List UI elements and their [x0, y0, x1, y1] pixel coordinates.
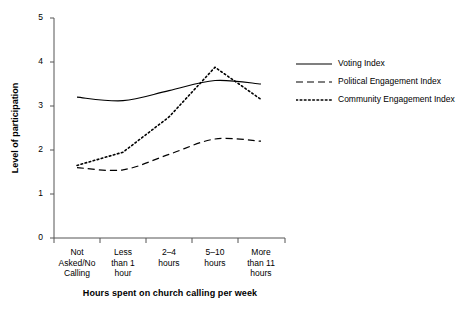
legend-item-label: Community Engagement Index	[338, 94, 455, 105]
y-axis-tick-label: 4	[27, 56, 43, 66]
series-line-2	[77, 67, 261, 165]
legend-item-label: Voting Index	[338, 58, 385, 69]
x-axis-category-label-line: hour	[95, 268, 151, 279]
x-axis-category-label-line: hours	[233, 268, 289, 279]
x-axis-ticks	[54, 238, 285, 243]
legend-line-swatch-icon	[296, 94, 332, 106]
series-line-0	[77, 80, 261, 101]
legend-item-2: Community Engagement Index	[296, 94, 456, 106]
x-axis-title: Hours spent on church calling per week	[54, 288, 286, 298]
legend-item-0: Voting Index	[296, 58, 456, 70]
y-axis-ticks	[50, 18, 54, 238]
y-axis-tick-label: 5	[27, 12, 43, 22]
data-series-group	[77, 67, 261, 170]
x-axis-category-label-line: More	[233, 247, 289, 258]
chart-figure: Level of participation 012345 NotAsked/N…	[0, 0, 461, 311]
chart-legend: Voting IndexPolitical Engagement IndexCo…	[296, 58, 456, 112]
y-axis-tick-label: 0	[27, 232, 43, 242]
legend-line-swatch-icon	[296, 58, 332, 70]
y-axis-tick-label: 2	[27, 144, 43, 154]
legend-item-1: Political Engagement Index	[296, 76, 456, 88]
x-axis-category-label: Morethan 11hours	[233, 247, 289, 279]
y-axis-tick-label: 1	[27, 188, 43, 198]
legend-line-swatch-icon	[296, 76, 332, 88]
series-line-1	[77, 138, 261, 170]
legend-item-label: Political Engagement Index	[338, 76, 441, 87]
y-axis-tick-label: 3	[27, 100, 43, 110]
x-axis-category-label-line: than 11	[233, 258, 289, 269]
